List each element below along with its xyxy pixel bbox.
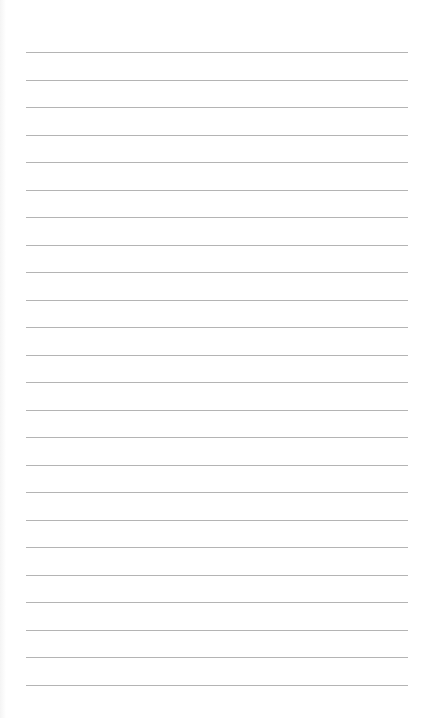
ruled-line [26,107,408,108]
ruled-line [26,135,408,136]
ruled-line [26,657,408,658]
ruled-line [26,272,408,273]
ruled-line [26,217,408,218]
ruled-line [26,300,408,301]
ruled-line [26,547,408,548]
ruled-line [26,437,408,438]
ruled-line [26,492,408,493]
ruled-line [26,520,408,521]
ruled-line [26,382,408,383]
ruled-line [26,190,408,191]
ruled-line [26,575,408,576]
ruled-line [26,52,408,53]
ruled-line [26,602,408,603]
ruled-line [26,630,408,631]
ruled-line [26,162,408,163]
ruled-line [26,327,408,328]
ruled-line [26,355,408,356]
ruled-line [26,80,408,81]
ruled-line [26,410,408,411]
ruled-line [26,465,408,466]
ruled-line [26,685,408,686]
ruled-line [26,245,408,246]
lined-paper-page [0,0,431,718]
